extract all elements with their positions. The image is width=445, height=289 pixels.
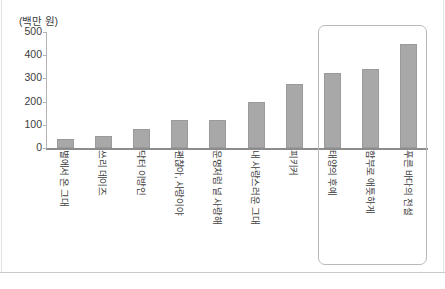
bar	[362, 69, 379, 148]
y-axis-tick-mark	[43, 148, 47, 149]
x-axis-category-label: 괜찮아, 사랑이야	[173, 150, 186, 265]
x-axis-category-label: 피키커	[287, 150, 300, 265]
bar	[209, 120, 226, 148]
y-axis-tick-label: 200	[6, 95, 42, 107]
y-axis-tick-label: 500	[6, 25, 42, 37]
y-axis-tick-label: 400	[6, 48, 42, 60]
bar	[248, 102, 265, 148]
x-axis-category-label: 함부로 애틋하게	[364, 150, 377, 265]
bar	[286, 84, 303, 148]
y-axis-tick-label: 0	[6, 141, 42, 153]
x-axis-category-label: 운명처럼 널 사랑해	[211, 150, 224, 265]
chart-page: (백만 원) 0100200300400500 별에서 온 그대쓰리 데이즈닥터…	[0, 0, 445, 289]
bar-series	[46, 32, 428, 148]
x-axis-category-label: 별에서 온 그대	[58, 150, 71, 265]
x-axis-category-label: 푸른 바다의 전설	[402, 150, 415, 265]
y-axis-tick-label: 300	[6, 71, 42, 83]
x-axis-category-label: 태양의 후예	[326, 150, 339, 265]
bar	[400, 44, 417, 148]
bar	[171, 120, 188, 148]
x-axis-category-label: 내 사랑스러운 그대	[249, 150, 262, 265]
bar	[57, 139, 74, 148]
x-axis-category-label: 쓰리 데이즈	[96, 150, 109, 265]
x-axis-category-labels: 별에서 온 그대쓰리 데이즈닥터 이방인괜찮아, 사랑이야운명처럼 널 사랑해내…	[46, 150, 428, 268]
y-axis-tick-label: 100	[6, 118, 42, 130]
bar-chart: (백만 원) 0100200300400500 별에서 온 그대쓰리 데이즈닥터…	[0, 0, 445, 272]
bar	[133, 129, 150, 148]
bar	[324, 73, 341, 148]
x-axis-category-label: 닥터 이방인	[135, 150, 148, 265]
page-frame-bottom-rule	[0, 272, 445, 273]
bar	[95, 136, 112, 148]
